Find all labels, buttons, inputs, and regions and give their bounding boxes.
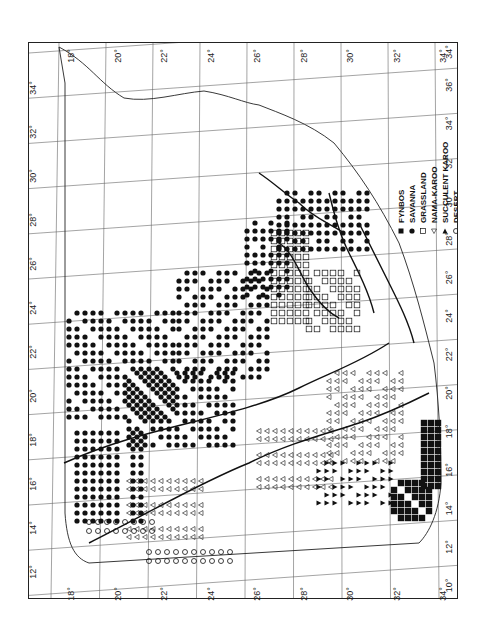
legend-item-succulent-karoo: SUCCULENT KAROO: [441, 142, 450, 234]
map-frame: FYNBOSSAVANNAGRASSLANDNAMA-KAROOSUCCULEN…: [28, 42, 458, 599]
legend-label: DESERT: [452, 190, 457, 223]
legend-item-fynbos: FYNBOS: [397, 189, 406, 234]
legend-item-nama-karoo: NAMA-KAROO: [430, 167, 439, 234]
legend-label: SAVANNA: [408, 184, 417, 223]
biome-map: FYNBOSSAVANNAGRASSLANDNAMA-KAROOSUCCULEN…: [29, 43, 457, 598]
legend-label: NAMA-KAROO: [430, 167, 439, 223]
legend-label: FYNBOS: [397, 189, 406, 223]
legend-label: GRASSLAND: [419, 172, 428, 223]
legend-label: SUCCULENT KAROO: [441, 142, 450, 223]
biome-markers: [66, 190, 441, 563]
legend-item-grassland: GRASSLAND: [419, 172, 428, 233]
legend: FYNBOSSAVANNAGRASSLANDNAMA-KAROOSUCCULEN…: [397, 142, 457, 234]
legend-item-desert: DESERT: [452, 190, 457, 233]
legend-item-savanna: SAVANNA: [408, 184, 417, 233]
